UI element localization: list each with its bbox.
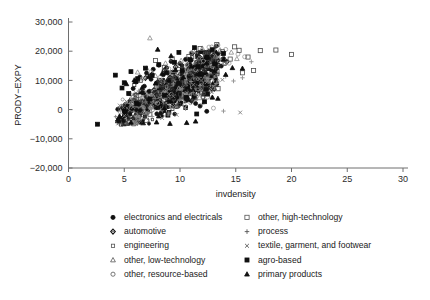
- legend-item: process: [245, 226, 288, 236]
- legend-marker: [245, 244, 249, 248]
- legend-label: process: [258, 226, 288, 236]
- legend-label: automotive: [124, 226, 166, 236]
- y-tick-label: −10,000: [30, 134, 63, 144]
- y-tick-label: −20,000: [30, 163, 63, 173]
- x-axis-title: invdensity: [216, 189, 257, 199]
- y-axis-title: PRODY−EXPY: [13, 64, 23, 125]
- x-tick-label: 20: [286, 174, 296, 184]
- legend-item: electronics and electricals: [111, 212, 222, 222]
- legend-marker: [111, 244, 114, 247]
- y-tick-label: 0: [57, 105, 62, 115]
- legend-marker: [111, 215, 115, 219]
- x-tick-label: 30: [398, 174, 408, 184]
- legend-label: textile, garment, and footwear: [258, 240, 371, 250]
- legend-item: textile, garment, and footwear: [245, 240, 371, 250]
- y-tick-label: 10,000: [35, 76, 63, 86]
- x-tick-label: 5: [122, 174, 127, 184]
- scatter-chart: −20,000−10,000010,00020,00030,0000510152…: [0, 0, 430, 300]
- legend-item: other, low-technology: [111, 255, 206, 265]
- legend-marker: [245, 272, 250, 276]
- x-tick-label: 15: [231, 174, 241, 184]
- legend-item: primary products: [245, 269, 322, 279]
- legend-label: electronics and electricals: [124, 212, 222, 222]
- legend-label: other, high-technology: [258, 212, 343, 222]
- legend-marker: [111, 229, 116, 234]
- chart-legend: electronics and electricalsautomotiveeng…: [111, 212, 372, 279]
- legend-marker: [245, 215, 249, 219]
- legend-label: other, resource-based: [124, 269, 208, 279]
- legend-item: other, resource-based: [111, 269, 208, 279]
- legend-item: agro-based: [245, 255, 302, 265]
- y-tick-label: 20,000: [35, 46, 63, 56]
- legend-marker: [111, 272, 115, 276]
- legend-marker: [245, 258, 249, 262]
- x-tick-label: 0: [66, 174, 71, 184]
- axes: −20,000−10,000010,00020,00030,0000510152…: [13, 17, 408, 199]
- x-tick-label: 25: [342, 174, 352, 184]
- legend-item: engineering: [111, 240, 169, 250]
- legend-label: other, low-technology: [124, 255, 206, 265]
- legend-label: engineering: [124, 240, 169, 250]
- legend-item: automotive: [111, 226, 167, 236]
- legend-marker: [245, 229, 250, 234]
- legend-label: agro-based: [258, 255, 302, 265]
- legend-item: other, high-technology: [245, 212, 343, 222]
- plot-area: −20,000−10,000010,00020,00030,0000510152…: [0, 0, 430, 300]
- data-points: [96, 36, 294, 126]
- legend-label: primary products: [258, 269, 322, 279]
- legend-marker: [111, 258, 116, 262]
- x-tick-label: 10: [175, 174, 185, 184]
- y-tick-label: 30,000: [35, 17, 63, 27]
